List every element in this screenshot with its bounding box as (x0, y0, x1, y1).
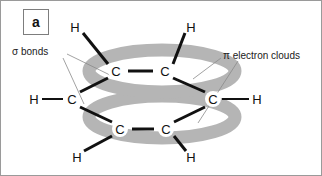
atom-label-H2: H (186, 20, 195, 35)
atom-label-C5: C (115, 122, 124, 137)
leader-line-pi-1 (193, 58, 221, 79)
bond-C5-H5 (84, 136, 112, 151)
atom-label-H1: H (70, 20, 79, 35)
atom-label-H6: H (29, 92, 38, 107)
atom-label-H3: H (252, 92, 261, 107)
annotation-pi-electron-clouds: π electron clouds (223, 51, 300, 61)
figure-panel: C C C C C C H H H H H H a σ bonds π elec… (0, 0, 322, 176)
annotation-sigma-bonds: σ bonds (12, 47, 48, 57)
atom-label-C3: C (208, 92, 217, 107)
panel-label-letter: a (32, 15, 40, 29)
atom-label-H4: H (186, 150, 195, 165)
atom-label-C4: C (161, 122, 170, 137)
benzene-diagram: C C C C C C H H H H H H (1, 1, 322, 176)
atom-label-H5: H (72, 150, 81, 165)
atom-label-C6: C (67, 92, 76, 107)
atom-label-C2: C (160, 64, 169, 79)
atom-label-C1: C (111, 64, 120, 79)
panel-label-box: a (23, 9, 49, 35)
